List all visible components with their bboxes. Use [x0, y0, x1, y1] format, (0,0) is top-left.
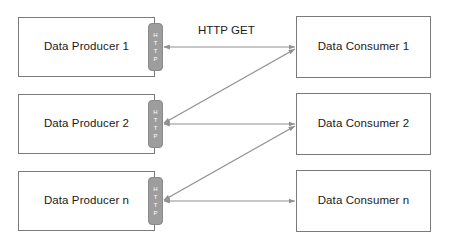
http-connector-letter-t2: T	[154, 201, 158, 209]
connection-producer2-consumer1	[164, 49, 295, 123]
http-connector-letter-p: P	[153, 209, 157, 217]
http-connector-letter-p: P	[153, 132, 157, 140]
http-connector-letter-t1: T	[154, 39, 158, 47]
http-connector-letter-t1: T	[154, 116, 158, 124]
http-connector-letter-t2: T	[154, 47, 158, 55]
diagram-canvas: Data Producer 1 H T T P Data Producer 2 …	[0, 0, 450, 247]
connection-producern-consumer2	[164, 126, 295, 200]
http-connector-letter-h: H	[153, 108, 157, 116]
connection-lines-layer	[0, 0, 450, 247]
http-connector-producer-1[interactable]: H T T P	[148, 23, 163, 71]
http-connector-letter-t1: T	[154, 193, 158, 201]
http-connector-producer-2[interactable]: H T T P	[148, 100, 163, 148]
http-connector-letter-p: P	[153, 55, 157, 63]
http-connector-letter-h: H	[153, 31, 157, 39]
http-connector-letter-t2: T	[154, 124, 158, 132]
http-connector-producer-n[interactable]: H T T P	[148, 177, 163, 225]
http-connector-letter-h: H	[153, 185, 157, 193]
